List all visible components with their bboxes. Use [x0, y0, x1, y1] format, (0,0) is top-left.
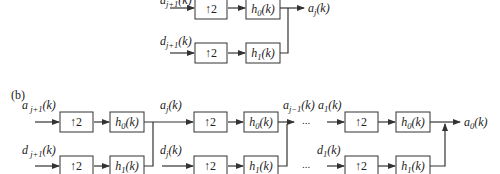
stage3-output-label: a0(k) [464, 115, 488, 131]
panel-a-output-label: aj(k) [308, 1, 330, 17]
wavelet-synthesis-diagram: aj+1(k) ↑2 h0(k) aj(k) dj+1(k) ↑2 h1(k) … [0, 0, 500, 174]
stage2-filter-h0-label: h0(k) [249, 115, 273, 131]
stage3-upsample-top-label: ↑2 [355, 115, 367, 129]
ellipsis-top: ... [302, 114, 311, 126]
stage2-upsample-bottom-label: ↑2 [204, 159, 216, 173]
stage1-filter-h0-label: h0(k) [115, 115, 139, 131]
stage1-input-detail-label: d j+1(k) [22, 143, 56, 159]
stage2-input-approx-label: aj(k) [160, 98, 182, 114]
panel-b: (b) a j+1(k) ↑2 h0(k) d j+1(k) ↑2 h1(k) … [11, 88, 488, 174]
stage3-input-approx-label: a1(k) [318, 98, 342, 114]
panel-a-filter-h1-label: h1(k) [251, 46, 275, 62]
stage1-input-approx-label: a j+1(k) [22, 98, 56, 114]
stage1-upsample-top-label: ↑2 [70, 115, 82, 129]
panel-a-upsample-bottom-label: ↑2 [205, 46, 217, 60]
stage2-output-label: aj−1(k) [283, 98, 315, 114]
stage1-upsample-bottom-label: ↑2 [70, 159, 82, 173]
stage2-filter-h1-label: h1(k) [249, 159, 273, 174]
stage1-filter-h1-label: h1(k) [115, 159, 139, 174]
panel-a-upsample-top-label: ↑2 [205, 2, 217, 16]
stage2-input-detail-label: dj(k) [160, 143, 182, 159]
stage3-filter-h0-label: h0(k) [401, 115, 425, 131]
stage2-upsample-top-label: ↑2 [204, 115, 216, 129]
panel-a: aj+1(k) ↑2 h0(k) aj(k) dj+1(k) ↑2 h1(k) [160, 0, 330, 63]
stage3-filter-h1-label: h1(k) [401, 159, 425, 174]
panel-a-filter-h0-label: h0(k) [251, 2, 275, 18]
stage3-upsample-bottom-label: ↑2 [355, 159, 367, 173]
ellipsis-bottom: ... [302, 158, 311, 170]
stage3-input-detail-label: d1(k) [317, 143, 341, 159]
panel-a-input-detail-label: dj+1(k) [160, 34, 192, 50]
